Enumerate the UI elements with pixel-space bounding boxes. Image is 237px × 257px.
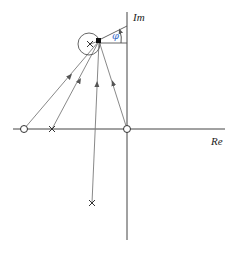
vector-arrows	[66, 76, 115, 89]
angle-arc	[120, 31, 121, 43]
vector-from-zero-origin	[99, 41, 127, 129]
angle-phi-label: φ	[112, 30, 119, 41]
zero-origin-icon	[124, 126, 131, 133]
pole-upper-icon	[87, 41, 93, 47]
test-point-marker	[96, 38, 101, 43]
vector-from-pole-lower	[92, 41, 99, 203]
real-axis-label: Re	[211, 135, 223, 147]
zero-left-icon	[21, 126, 28, 133]
vector-from-zero-left	[24, 41, 99, 129]
vectors	[24, 41, 127, 203]
imag-axis-label: Im	[133, 11, 145, 23]
